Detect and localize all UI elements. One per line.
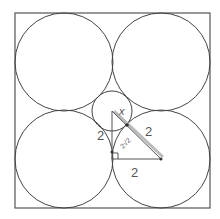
outer-square [15,13,210,208]
tangent-point-dot [125,123,129,127]
triangle-hypotenuse [112,111,161,159]
large-circle-bottom-left [15,110,113,208]
hypotenuse-highlight [114,111,163,157]
label-x: x [118,105,125,117]
label-left-leg: 2 [97,128,104,143]
label-bottom-leg: 2 [131,165,138,180]
label-radius-segment: 2 [145,124,152,139]
label-hypotenuse: 2√2 [119,136,132,149]
large-circle-top-right [112,13,210,111]
circles-in-square-diagram: x 2 2 2 2√2 [0,0,220,219]
bottom-right-center-dot [160,158,163,161]
vertex-dot [111,151,114,154]
